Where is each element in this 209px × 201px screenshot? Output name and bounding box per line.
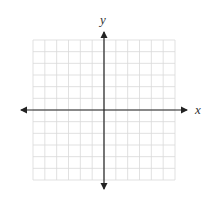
x-axis-label: x [194, 102, 201, 117]
coordinate-plane: y x [0, 0, 209, 201]
y-axis-label: y [98, 12, 106, 27]
